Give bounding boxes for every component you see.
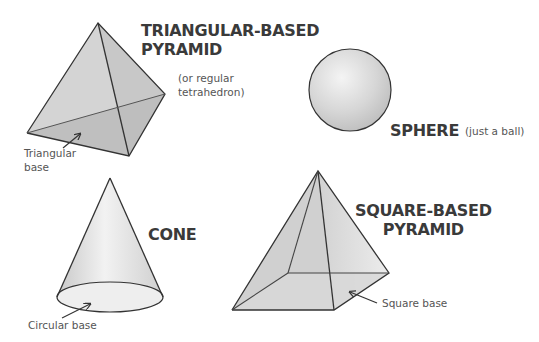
tetrahedron-subtitle-line2: tetrahedron)	[178, 85, 245, 99]
square-pyramid-shape	[232, 171, 389, 310]
triangular-base-label-line2: base	[24, 160, 76, 174]
square-pyramid-title: SQUARE-BASED PYRAMID	[355, 201, 492, 239]
tetrahedron-title-line1: TRIANGULAR-BASED	[141, 21, 319, 40]
tetrahedron-subtitle: (or regular tetrahedron)	[178, 71, 245, 99]
sphere-shape	[309, 49, 391, 131]
triangular-base-label-line1: Triangular	[24, 146, 76, 160]
sphere-subtitle: (just a ball)	[465, 124, 524, 138]
cone-shape	[57, 178, 163, 318]
sphere-title: SPHERE	[390, 121, 459, 140]
arrow-icon	[350, 292, 377, 303]
tetrahedron-title-line2: PYRAMID	[141, 40, 319, 59]
circular-base-label: Circular base	[28, 318, 97, 332]
triangular-base-label: Triangular base	[24, 146, 76, 174]
tetrahedron-subtitle-line1: (or regular	[178, 71, 245, 85]
cone-title: CONE	[148, 225, 196, 244]
square-pyramid-title-line1: SQUARE-BASED	[355, 201, 492, 220]
square-base-label: Square base	[382, 296, 447, 310]
square-pyramid-title-line2: PYRAMID	[355, 220, 492, 239]
tetrahedron-title: TRIANGULAR-BASED PYRAMID	[141, 21, 319, 59]
